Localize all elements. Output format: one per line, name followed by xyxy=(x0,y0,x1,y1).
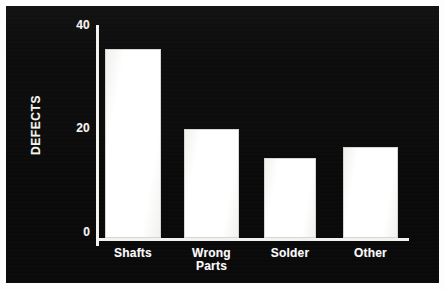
y-tick-label-40: 40 xyxy=(56,19,90,31)
x-category-label-shafts: Shafts xyxy=(88,247,178,260)
chart-panel: 40 20 0 DEFECTS Shafts Wrong Parts Solde… xyxy=(6,6,439,283)
y-tick-label-0: 0 xyxy=(56,226,90,238)
x-category-label-other: Other xyxy=(326,247,416,260)
y-axis-line xyxy=(96,25,99,246)
chart-screenshot: 40 20 0 DEFECTS Shafts Wrong Parts Solde… xyxy=(0,0,445,290)
bar-wrong-parts xyxy=(184,129,239,238)
x-category-label-line1: Shafts xyxy=(88,247,178,260)
bar-shafts xyxy=(105,49,161,238)
bar-solder xyxy=(264,158,316,238)
y-tick-label-20: 20 xyxy=(56,122,90,134)
x-category-label-line2: Parts xyxy=(167,260,257,273)
bar-other xyxy=(343,147,398,238)
x-category-label-wrong-parts: Wrong Parts xyxy=(167,247,257,273)
x-axis-line xyxy=(96,238,409,241)
x-category-label-line1: Solder xyxy=(245,247,335,260)
x-category-label-solder: Solder xyxy=(245,247,335,260)
y-axis-title: DEFECTS xyxy=(29,70,43,180)
x-category-label-line1: Other xyxy=(326,247,416,260)
